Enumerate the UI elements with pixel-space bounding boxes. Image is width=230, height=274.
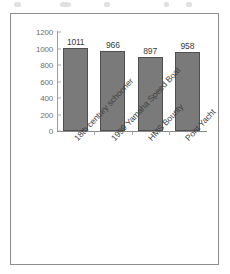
scan-artifact-mark xyxy=(186,2,192,7)
y-axis-tick-label: 600 xyxy=(0,77,57,86)
scan-artifact-mark xyxy=(104,2,110,7)
scan-artifact-mark xyxy=(164,2,169,7)
y-axis-tick-label: 800 xyxy=(0,61,57,70)
x-axis-tick-mark xyxy=(132,131,133,135)
scan-artifact-row xyxy=(0,0,230,12)
bar xyxy=(175,52,200,131)
bar xyxy=(63,48,88,131)
bar-value-label: 958 xyxy=(165,41,209,51)
x-axis-tick-mark xyxy=(94,131,95,135)
y-axis-tick-label: 200 xyxy=(0,110,57,119)
scan-artifact-mark xyxy=(14,2,21,7)
scanned-page: 020040060080010001200 1011966897958 18th… xyxy=(0,0,230,274)
y-axis-tick-label: 400 xyxy=(0,94,57,103)
scan-artifact-mark xyxy=(60,2,71,7)
y-axis-tick-label: 1000 xyxy=(0,44,57,53)
y-axis-tick-label: 0 xyxy=(0,127,57,136)
y-axis-tick-label: 1200 xyxy=(0,28,57,37)
x-axis-tick-mark xyxy=(169,131,170,135)
